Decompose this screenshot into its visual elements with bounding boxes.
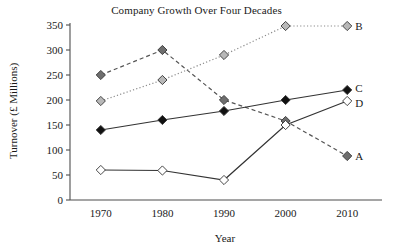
series-label-D: D	[355, 97, 363, 109]
x-tick-label: 2010	[336, 207, 359, 219]
data-point-C-1970	[96, 125, 105, 134]
data-point-C-1980	[158, 115, 167, 124]
x-tick-label: 1980	[151, 207, 174, 219]
data-point-B-2000	[281, 21, 290, 30]
x-tick-label: 1970	[90, 207, 113, 219]
data-point-C-2010	[343, 85, 352, 94]
series-C	[96, 85, 352, 134]
y-tick-label: 100	[47, 144, 64, 156]
chart-container: Company Growth Over Four Decades Turnove…	[0, 0, 393, 251]
data-point-D-2010	[343, 96, 352, 105]
y-tick-label: 150	[47, 119, 64, 131]
data-point-B-1970	[96, 96, 105, 105]
data-point-D-1970	[96, 165, 105, 174]
y-tick-label: 50	[52, 169, 64, 181]
y-axis: 050100150200250300350	[47, 19, 71, 206]
y-tick-label: 350	[47, 19, 64, 31]
data-point-B-1980	[158, 75, 167, 84]
data-point-D-1980	[158, 166, 167, 175]
data-point-C-1990	[219, 106, 228, 115]
series-labels: ABCD	[355, 20, 363, 162]
series-A	[96, 45, 352, 160]
x-tick-label: 2000	[275, 207, 298, 219]
series-line-B	[101, 26, 347, 101]
y-tick-label: 0	[58, 194, 64, 206]
data-point-C-2000	[281, 95, 290, 104]
series-label-B: B	[355, 20, 362, 32]
y-tick-label: 300	[47, 44, 64, 56]
data-point-B-2010	[343, 21, 352, 30]
x-tick-label: 1990	[213, 207, 236, 219]
y-tick-label: 250	[47, 69, 64, 81]
x-axis: 19701980199020002010	[70, 200, 382, 219]
series-lines	[96, 21, 352, 184]
plot-area: 050100150200250300350 197019801990200020…	[0, 0, 393, 251]
data-point-B-1990	[219, 50, 228, 59]
y-tick-label: 200	[47, 94, 64, 106]
series-label-C: C	[355, 82, 362, 94]
data-point-A-2010	[343, 151, 352, 160]
series-label-A: A	[355, 150, 363, 162]
series-B	[96, 21, 352, 105]
data-point-A-1970	[96, 70, 105, 79]
